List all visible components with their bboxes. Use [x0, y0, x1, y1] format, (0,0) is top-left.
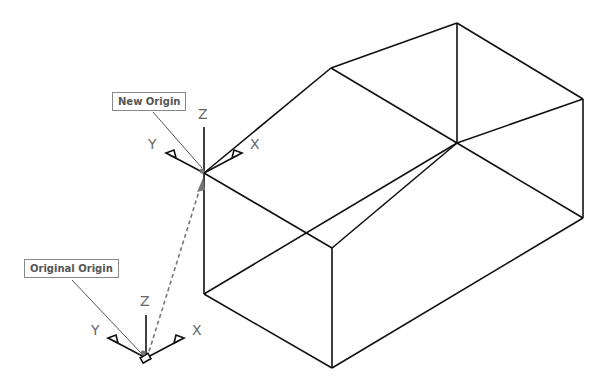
original-y-label: Y [91, 322, 100, 338]
original-z-label: Z [140, 293, 150, 309]
new-origin-callout: New Origin [112, 92, 186, 111]
new-z-label: Z [198, 106, 208, 122]
box-wireframe [204, 23, 583, 368]
new-x-label: X [250, 136, 260, 152]
original-x-label: X [192, 322, 202, 338]
original-ucs-icon [108, 315, 184, 363]
original-origin-leader [72, 280, 142, 354]
new-y-label: Y [148, 136, 157, 152]
original-origin-callout: Original Origin [24, 259, 119, 278]
